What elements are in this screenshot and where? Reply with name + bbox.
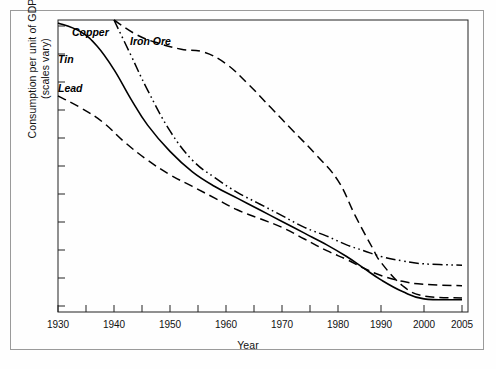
y-axis-title-line1: Consumption per unit of GDP <box>26 0 39 189</box>
x-tick-label: 1960 <box>215 319 237 330</box>
series-label-lead: Lead <box>58 82 83 94</box>
plot-area <box>0 0 496 369</box>
x-tick-label: 1980 <box>327 319 349 330</box>
series-label-iron-ore: Iron Ore <box>130 35 171 47</box>
x-tick-label: 1940 <box>103 319 125 330</box>
chart-figure: 193019401950196019701980199020002005 Con… <box>0 0 496 369</box>
y-axis-ticks <box>58 26 65 306</box>
series-line-iron-ore <box>114 20 462 298</box>
series-line-tin <box>114 20 462 265</box>
x-tick-label: 2000 <box>413 319 435 330</box>
plot-frame <box>58 20 468 312</box>
y-axis-title: Consumption per unit of GDP (scales vary… <box>26 0 51 189</box>
x-tick-label: 1930 <box>47 319 69 330</box>
series-label-tin: Tin <box>58 53 74 65</box>
series-line-lead <box>58 96 462 286</box>
y-axis-title-line2: (scales vary) <box>38 0 51 189</box>
x-tick-label: 1970 <box>271 319 293 330</box>
x-tick-label: 2005 <box>451 319 473 330</box>
series-line-copper <box>58 23 462 300</box>
x-axis-title: Year <box>0 339 496 351</box>
x-tick-label: 1990 <box>370 319 392 330</box>
data-series-group <box>58 20 462 300</box>
x-axis-ticks <box>58 305 462 312</box>
x-tick-label: 1950 <box>159 319 181 330</box>
series-label-copper: Copper <box>72 26 109 38</box>
